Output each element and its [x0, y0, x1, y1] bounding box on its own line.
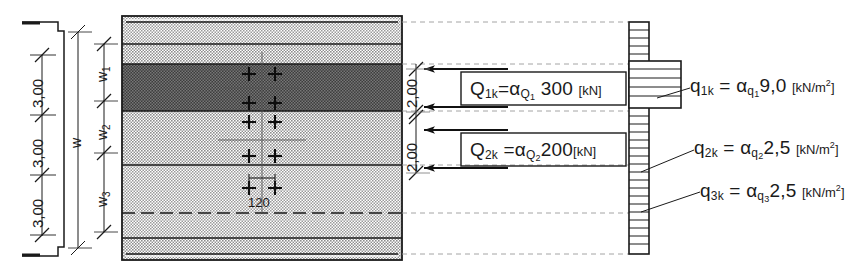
q3k-distributed-equation: q3k = αq32,5 [kN/m2]	[700, 181, 845, 204]
w2-label: w2	[95, 124, 112, 140]
center-dimension-120: 120	[248, 196, 270, 209]
q2k-equation: Q2k =αQ2200[kN]	[470, 140, 596, 163]
storey-dim-3: 3,00	[30, 199, 45, 228]
w1-label: w1	[95, 66, 112, 82]
w-overall-label: w	[69, 138, 83, 148]
projection-lines	[402, 22, 630, 254]
q1k-equation: Q1k=αQ1 300 [kN]	[470, 79, 602, 102]
q2k-distributed-equation: q2k = αq22,5 [kN/m2]	[694, 138, 839, 161]
arrow-spacing-dim-2: 2,00	[404, 143, 419, 172]
storey-dim-2: 3,00	[30, 139, 45, 168]
arrow-spacing-dim-1: 2,00	[404, 79, 419, 108]
w3-label: w3	[95, 191, 112, 207]
storey-dim-1: 3,00	[30, 79, 45, 108]
q1k-distributed-equation: q1k = αq19,0 [kN/m2]	[690, 76, 835, 99]
drawing-canvas: 3,00 3,00 3,00 w w1 w2 w3 120 2,00 2,00 …	[0, 0, 868, 277]
distributed-load-bar	[629, 22, 681, 254]
q3k-leader	[641, 192, 700, 212]
